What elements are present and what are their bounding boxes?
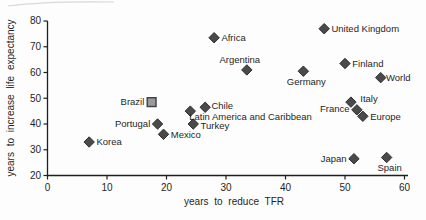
data-point-label-germany: Germany [287,76,326,87]
y-tick-label: 30 [30,144,42,155]
data-point-label-japan: Japan [321,153,347,164]
data-point-mexico [158,129,168,139]
data-point-spain [381,152,391,162]
data-point-brazil [147,98,156,107]
data-point-argentina [242,65,252,75]
x-tick-label: 0 [45,182,51,193]
scan-artifact [8,2,114,6]
data-point-label-turkey: Turkey [201,120,230,131]
data-point-africa [209,33,219,43]
chart-canvas: 203040506070800102030405060years to redu… [0,0,426,220]
y-tick-label: 20 [30,170,42,181]
data-point-label-italy: Italy [360,93,378,104]
data-point-label-argentina: Argentina [219,54,260,65]
data-point-label-europe: Europe [370,111,401,122]
data-point-germany [298,66,308,76]
data-point-united-kingdom [319,24,329,34]
x-axis-title: years to reduce TFR [184,196,284,207]
data-point-world [376,72,386,82]
y-tick-label: 40 [30,118,42,129]
data-point-japan [349,154,359,164]
axis-lines [48,21,409,176]
x-tick-label: 10 [101,182,113,193]
x-tick-label: 20 [161,182,173,193]
x-tick-label: 60 [399,182,411,193]
data-point-label-france: France [320,103,350,114]
data-point-label-latin-america-and-caribbean: Latin America and Caribbean [189,111,312,122]
data-point-korea [84,137,94,147]
data-point-label-korea: Korea [96,136,122,147]
x-tick-label: 50 [339,182,351,193]
data-point-label-brazil: Brazil [121,96,145,107]
data-point-label-portugal: Portugal [115,118,150,129]
data-point-finland [340,58,350,68]
data-point-label-united-kingdom: United Kingdom [331,23,399,34]
data-point-label-chile: Chile [211,100,233,111]
scatter-chart: 203040506070800102030405060years to redu… [0,0,426,220]
y-tick-label: 50 [30,93,42,104]
x-tick-label: 40 [280,182,292,193]
data-point-label-mexico: Mexico [171,129,201,140]
data-point-label-africa: Africa [221,32,246,43]
x-tick-label: 30 [220,182,232,193]
data-point-label-finland: Finland [352,58,383,69]
y-tick-label: 70 [30,41,42,52]
data-point-label-world: World [386,72,411,83]
y-axis-title: years to increase life expectancy [5,19,16,176]
data-point-portugal [152,119,162,129]
y-tick-label: 80 [30,15,42,26]
y-tick-label: 60 [30,67,42,78]
data-point-label-spain: Spain [377,162,401,173]
